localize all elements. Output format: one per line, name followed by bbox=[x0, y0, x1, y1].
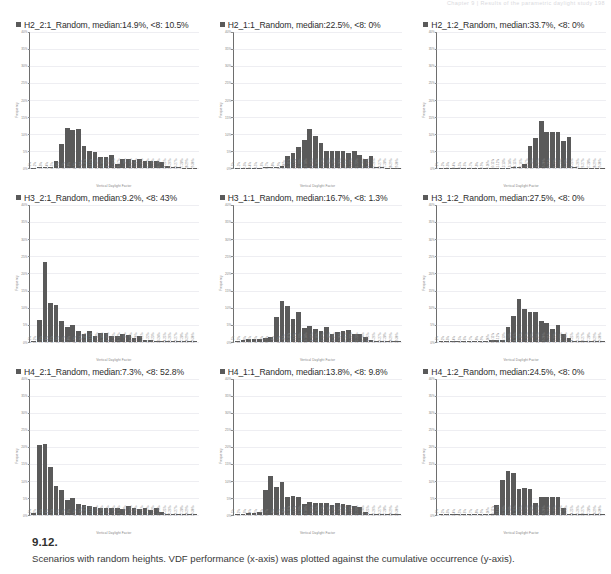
x-tick-label: 15-16% bbox=[315, 159, 319, 169]
x-tick-label: 18-19% bbox=[128, 332, 132, 342]
bar-series bbox=[438, 205, 605, 341]
x-tick-label: 9-10% bbox=[282, 334, 286, 343]
x-axis-label: Vertical Daylight Factor bbox=[29, 184, 199, 188]
legend-swatch-icon bbox=[16, 195, 21, 200]
plot-area: Frequency40%35%30%25%20%15%10%5%0%0-1%1-… bbox=[417, 379, 607, 534]
x-tick-label: 1-2% bbox=[441, 509, 445, 516]
x-tick-label: 8-9% bbox=[74, 162, 78, 169]
x-tick-label: 16-17% bbox=[524, 332, 528, 342]
legend-swatch-icon bbox=[16, 369, 21, 374]
x-tick-label: 29-30% bbox=[191, 506, 195, 516]
x-tick-label: 20-21% bbox=[343, 506, 347, 516]
legend-swatch-icon bbox=[423, 369, 428, 374]
x-tick-label: 22-23% bbox=[151, 506, 155, 516]
x-tick-label: 17-18% bbox=[530, 159, 534, 169]
x-tick-label: 10-11% bbox=[83, 506, 87, 516]
x-tick-label: 14-15% bbox=[310, 506, 314, 516]
x-tick-label: 13-14% bbox=[100, 159, 104, 169]
x-tick-label: 8-9% bbox=[74, 336, 78, 343]
y-tick-mark bbox=[28, 481, 31, 482]
x-tick-label: 28-29% bbox=[185, 332, 189, 342]
x-tick-label: 1-2% bbox=[441, 162, 445, 169]
figure-caption-text: Scenarios with random heights. VDF perfo… bbox=[32, 553, 592, 565]
x-axis-label: Vertical Daylight Factor bbox=[29, 531, 199, 535]
x-tick-label: 15-16% bbox=[519, 506, 523, 516]
x-tick-label: 6-7% bbox=[470, 162, 474, 169]
plot-area: Frequency40%35%30%25%20%15%10%5%0%0-1%1-… bbox=[10, 205, 200, 360]
y-tick-mark bbox=[231, 430, 234, 431]
x-tick-label: 9-10% bbox=[78, 161, 82, 170]
x-tick-label: 16-17% bbox=[117, 506, 121, 516]
bar bbox=[48, 467, 53, 515]
chart-panel: H2_2:1_Random, median:14.9%, <8: 10.5%Fr… bbox=[0, 16, 204, 189]
y-tick-mark bbox=[231, 117, 234, 118]
x-tick-label: 3-4% bbox=[453, 336, 457, 343]
x-tick-label: 12-13% bbox=[298, 332, 302, 342]
y-tick-mark bbox=[28, 447, 31, 448]
x-tick-label: 2-3% bbox=[447, 162, 451, 169]
x-tick-label: 4-5% bbox=[51, 336, 55, 343]
y-tick-mark bbox=[28, 413, 31, 414]
x-tick-label: 16-17% bbox=[524, 159, 528, 169]
x-tick-label: 6-7% bbox=[62, 509, 66, 516]
x-tick-label: 11-12% bbox=[89, 159, 93, 169]
x-tick-label: 17-18% bbox=[326, 506, 330, 516]
x-tick-label: 10-11% bbox=[491, 159, 495, 169]
x-tick-label: 1-2% bbox=[34, 509, 38, 516]
x-tick-label: 26-27% bbox=[174, 506, 178, 516]
x-tick-label: 22-23% bbox=[558, 159, 562, 169]
y-tick-mark bbox=[435, 430, 438, 431]
legend-swatch-icon bbox=[220, 22, 225, 27]
chart-title-text: H2_1:2_Random, median:33.7%, <8: 0% bbox=[431, 20, 584, 30]
legend-swatch-icon bbox=[423, 22, 428, 27]
x-tick-label: 2-3% bbox=[243, 509, 247, 516]
bar bbox=[43, 262, 48, 342]
x-axis-label: Vertical Daylight Factor bbox=[436, 531, 606, 535]
x-tick: 29-30% bbox=[193, 169, 199, 181]
x-tick-label: 23-24% bbox=[157, 506, 161, 516]
x-tick-label: 21-22% bbox=[349, 506, 353, 516]
x-tick-label: 23-24% bbox=[360, 506, 364, 516]
x-tick-label: 14-15% bbox=[513, 159, 517, 169]
x-tick-label: 17-18% bbox=[530, 332, 534, 342]
x-tick-label: 6-7% bbox=[266, 509, 270, 516]
x-tick-label: 23-24% bbox=[564, 159, 568, 169]
y-tick-mark bbox=[231, 32, 234, 33]
x-tick-label: 18-19% bbox=[332, 506, 336, 516]
x-tick-label: 28-29% bbox=[592, 159, 596, 169]
y-tick-mark bbox=[28, 379, 31, 380]
x-tick-label: 15-16% bbox=[519, 159, 523, 169]
x-tick-label: 7-8% bbox=[475, 509, 479, 516]
x-tick-label: 9-10% bbox=[486, 507, 490, 516]
figure-caption: 9.12. Scenarios with random heights. VDF… bbox=[32, 536, 592, 565]
x-tick-label: 28-29% bbox=[389, 332, 393, 342]
x-tick-label: 8-9% bbox=[277, 336, 281, 343]
x-tick-label: 29-30% bbox=[394, 159, 398, 169]
page-header: Chapter 9 | Results of the parametric da… bbox=[0, 0, 611, 14]
x-tick-label: 29-30% bbox=[191, 159, 195, 169]
x-tick-label: 9-10% bbox=[282, 161, 286, 170]
x-tick-label: 24-25% bbox=[366, 332, 370, 342]
x-tick-label: 27-28% bbox=[179, 159, 183, 169]
x-tick-label: 20-21% bbox=[547, 159, 551, 169]
chart-panel: H3_1:2_Random, median:27.5%, <8: 0%Frequ… bbox=[407, 189, 611, 362]
y-tick-mark bbox=[435, 134, 438, 135]
x-tick-label: 4-5% bbox=[51, 509, 55, 516]
x-tick-label: 16-17% bbox=[524, 506, 528, 516]
x-tick-label: 10-11% bbox=[287, 159, 291, 169]
x-tick: 29-30% bbox=[600, 343, 606, 355]
x-tick-label: 14-15% bbox=[106, 332, 110, 342]
x-tick-label: 0-1% bbox=[232, 162, 236, 169]
x-tick-label: 21-22% bbox=[553, 332, 557, 342]
bar bbox=[43, 444, 48, 515]
x-tick-label: 25-26% bbox=[372, 506, 376, 516]
x-tick-label: 5-6% bbox=[464, 509, 468, 516]
axis-area bbox=[233, 205, 403, 342]
x-tick-label: 5-6% bbox=[260, 336, 264, 343]
x-tick-label: 8-9% bbox=[277, 162, 281, 169]
x-tick-label: 21-22% bbox=[553, 506, 557, 516]
y-tick-mark bbox=[231, 151, 234, 152]
x-tick: 29-30% bbox=[397, 343, 403, 355]
x-tick-label: 25-26% bbox=[575, 332, 579, 342]
x-tick-label: 5-6% bbox=[464, 336, 468, 343]
